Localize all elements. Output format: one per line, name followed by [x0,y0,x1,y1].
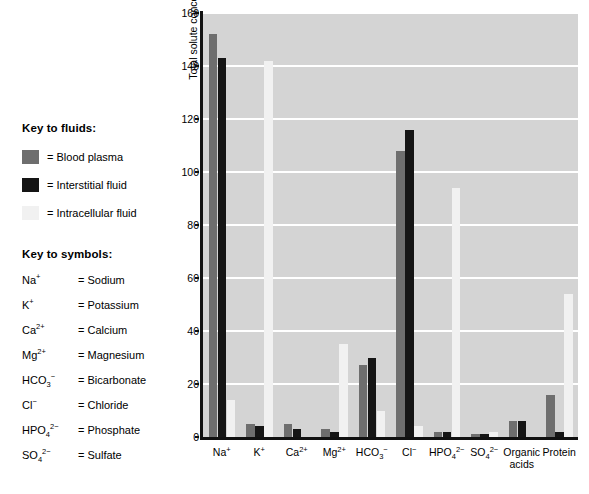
y-tick-mark-160 [195,12,199,14]
symbol-name-potassium: = Potassium [78,299,139,311]
legend-item-intracellular-fluid: = Intracellular fluid [22,204,137,222]
y-axis-tick-labels: 020406080100120140160 [163,0,199,460]
bar [368,358,377,438]
bar-group [246,13,273,437]
legend-swatch-blood-plasma [22,150,39,164]
symbol-name-bicarbonate: = Bicarbonate [78,374,146,386]
symbol-name-chloride: = Chloride [78,399,128,411]
bar-group [396,13,423,437]
y-tick-mark-60 [195,277,199,279]
bar [518,421,527,437]
bar-group [546,13,573,437]
legend-item-interstitial-fluid: = Interstitial fluid [22,176,127,194]
y-tick-mark-40 [195,330,199,332]
symbol-formula-chloride: Cl− [22,399,78,411]
bar [321,429,330,437]
bar-chart: Total solute concentration (mEq/L) 02040… [195,0,589,494]
bar [255,426,264,437]
x-tick-label: Protein [535,446,585,458]
plot-area [203,13,578,437]
y-tick-mark-140 [195,65,199,67]
symbol-name-sulfate: = Sulfate [78,449,122,461]
bar-group [471,13,498,437]
legend-swatch-intracellular-fluid [22,206,39,220]
legend-label-interstitial-fluid: = Interstitial fluid [47,179,127,191]
bar-group [284,13,311,437]
bar [246,424,255,437]
bar-group [434,13,461,437]
bar [284,424,293,437]
y-tick-mark-20 [195,383,199,385]
y-tick-mark-0 [195,436,199,438]
bar-group [321,13,348,437]
fluid-key-title: Key to fluids: [22,122,96,134]
bar [293,429,302,437]
bar [546,395,555,437]
symbol-formula-sulfate: SO42− [22,449,78,461]
symbol-formula-bicarbonate: HCO3− [22,374,78,386]
legend-swatch-interstitial-fluid [22,178,39,192]
symbol-formula-sodium: Na+ [22,274,78,286]
bar [377,411,386,438]
y-axis-line [200,11,203,438]
bar [396,151,405,437]
y-tick-mark-120 [195,118,199,120]
y-tick-mark-100 [195,171,199,173]
symbol-formula-magnesium: Mg2+ [22,349,78,361]
bar-group [509,13,536,437]
legend-label-intracellular-fluid: = Intracellular fluid [47,207,137,219]
symbol-row-sodium: Na+ = Sodium [22,274,125,291]
legend-label-blood-plasma: = Blood plasma [47,151,123,163]
y-tick-mark-80 [195,224,199,226]
bar [264,61,273,437]
bar [405,130,414,437]
bar-group [359,13,386,437]
symbol-formula-potassium: K+ [22,299,78,311]
bar [564,294,573,437]
symbol-key-title: Key to symbols: [22,248,112,260]
symbol-row-phosphate: HPO42− = Phosphate [22,424,140,441]
symbol-row-magnesium: Mg2+ = Magnesium [22,349,144,366]
symbol-row-sulfate: SO42− = Sulfate [22,449,122,466]
symbol-row-potassium: K+ = Potassium [22,299,139,316]
bar [414,426,423,437]
symbol-name-sodium: = Sodium [78,274,125,286]
bar [227,400,236,437]
bar-group [209,13,236,437]
symbol-name-calcium: = Calcium [78,324,127,336]
bar [218,58,227,437]
bar [452,188,461,437]
x-axis-tick-labels: Na+K+Ca2+Mg2+HCO3−Cl−HPO42−SO42−Organica… [203,442,578,482]
bar [339,344,348,437]
bar [209,34,218,437]
symbol-formula-phosphate: HPO42− [22,424,78,436]
symbol-name-phosphate: = Phosphate [78,424,140,436]
symbol-row-bicarbonate: HCO3− = Bicarbonate [22,374,146,391]
symbol-row-calcium: Ca2+ = Calcium [22,324,127,341]
symbol-row-chloride: Cl− = Chloride [22,399,128,416]
bar [509,421,518,437]
symbol-formula-calcium: Ca2+ [22,324,78,336]
symbol-name-magnesium: = Magnesium [78,349,144,361]
legend-item-blood-plasma: = Blood plasma [22,148,123,166]
x-axis-line [200,437,578,440]
bar [359,365,368,437]
